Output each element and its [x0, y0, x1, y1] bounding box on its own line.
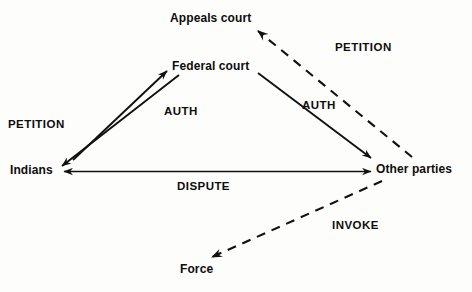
node-label-indians: Indians	[10, 163, 53, 177]
edge-label-auth-right: AUTH	[302, 99, 336, 112]
node-label-federal-court: Federal court	[172, 59, 249, 73]
edge-label-dispute: DISPUTE	[177, 180, 230, 193]
edge-label-invoke: INVOKE	[332, 219, 379, 232]
edge-label-petition-left: PETITION	[8, 118, 65, 131]
edge-federal-court-to-other-parties	[258, 73, 371, 158]
node-label-force: Force	[180, 262, 213, 276]
edge-federal-court-to-indians	[62, 75, 179, 166]
edge-label-auth-left: AUTH	[164, 105, 198, 118]
node-label-other-parties: Other parties	[376, 162, 452, 176]
edge-label-petition-right: PETITION	[335, 41, 392, 54]
node-label-appeals-court: Appeals court	[170, 11, 251, 25]
edge-layer	[0, 0, 472, 292]
diagram-canvas: Appeals court Federal court Indians Othe…	[0, 0, 472, 292]
